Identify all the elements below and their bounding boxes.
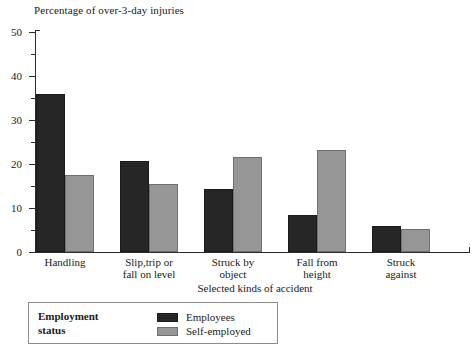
- y-tick-major: [29, 76, 36, 77]
- legend: Employment status EmployeesSelf-employed: [28, 302, 278, 344]
- y-tick-label: 10: [0, 203, 22, 214]
- y-tick-label: 30: [0, 115, 22, 126]
- y-tick-major: [29, 252, 36, 253]
- legend-title: Employment status: [38, 309, 148, 337]
- y-tick-major: [29, 32, 36, 33]
- x-category-label: Struck by object: [194, 256, 272, 280]
- bar-chart: Percentage of over-3-day injuries 010203…: [0, 0, 474, 355]
- x-category-label: Struck against: [362, 256, 440, 280]
- legend-row: Self-employed: [157, 324, 251, 338]
- legend-swatch-employees: [157, 313, 178, 322]
- y-tick-major: [29, 208, 36, 209]
- bar-selfemployed: [149, 184, 178, 252]
- x-axis-line: [35, 252, 470, 253]
- bar-employees: [120, 161, 149, 252]
- chart-title: Percentage of over-3-day injuries: [34, 4, 184, 17]
- bar-employees: [36, 94, 65, 252]
- y-tick-label: 20: [0, 159, 22, 170]
- y-axis-top-cap: [35, 30, 40, 31]
- bar-employees: [372, 226, 401, 252]
- x-category-label: Slip,trip or fall on level: [110, 256, 188, 280]
- x-category-label: Handling: [26, 256, 104, 268]
- y-tick-label: 50: [0, 27, 22, 38]
- bar-employees: [288, 215, 317, 252]
- x-category-label: Fall from height: [278, 256, 356, 280]
- y-tick-major: [29, 164, 36, 165]
- legend-label: Self-employed: [186, 325, 251, 337]
- legend-swatch-selfemployed: [157, 327, 178, 336]
- bar-selfemployed: [317, 150, 346, 252]
- legend-row: Employees: [157, 310, 251, 324]
- bar-selfemployed: [233, 157, 262, 252]
- bar-series-container: [36, 32, 470, 252]
- y-tick-major: [29, 120, 36, 121]
- x-axis-title: Selected kinds of accident: [0, 282, 474, 294]
- bar-selfemployed: [401, 229, 430, 252]
- legend-label: Employees: [186, 311, 235, 323]
- bar-employees: [204, 189, 233, 252]
- bar-selfemployed: [65, 175, 94, 252]
- y-tick-label: 0: [0, 247, 22, 258]
- legend-entries: EmployeesSelf-employed: [157, 310, 251, 338]
- y-tick-label: 40: [0, 71, 22, 82]
